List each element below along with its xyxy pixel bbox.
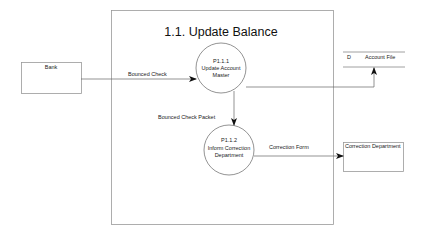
process-p1-1-2-name-line2: Department <box>215 153 244 159</box>
diagram-title: 1.1. Update Balance <box>164 25 277 39</box>
process-p1-1-1-name-line2: Master <box>213 73 230 79</box>
process-p1-1-1-number: P1.1.1 <box>213 59 229 65</box>
flow-account-file-arrow[interactable] <box>246 68 374 87</box>
flow-bounced-check-packet-label: Bounced Check Packet <box>158 115 215 121</box>
flow-correction-form-label: Correction Form <box>269 145 309 151</box>
correction-department-label: Correction Department <box>345 144 401 150</box>
data-store-label: Account File <box>365 55 395 61</box>
data-store-id: D <box>347 55 351 61</box>
process-p1-1-1-name-line1: Update Account <box>202 66 241 72</box>
process-boundary-frame <box>112 11 334 225</box>
flow-bounced-check-label: Bounced Check <box>128 72 167 78</box>
process-p1-1-2-number: P1.1.2 <box>221 138 237 144</box>
process-p1-1-2-name-line1: Inform Correction <box>208 146 251 152</box>
bank-entity-label: Bank <box>45 65 58 71</box>
